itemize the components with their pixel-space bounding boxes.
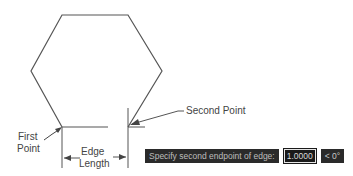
second-point-label: Second Point [186, 105, 246, 116]
edge-length-input[interactable]: 1.0000 [284, 149, 316, 163]
first-point-label-line2: Point [17, 143, 40, 154]
arrow-right-icon [119, 154, 126, 160]
edge-length-label-line1: Edge [81, 146, 104, 157]
hexagon-shape [31, 15, 162, 127]
command-prompt: Specify second endpoint of edge: [145, 149, 279, 163]
arrow-left-icon [64, 155, 71, 161]
dynamic-input-tooltip: Specify second endpoint of edge: 1.0000 … [145, 148, 344, 163]
second-point-leader [132, 111, 184, 124]
first-point-label-line1: First [18, 131, 37, 142]
angle-input[interactable]: < 0° [321, 149, 344, 163]
edge-length-label-line2: Length [79, 158, 110, 169]
